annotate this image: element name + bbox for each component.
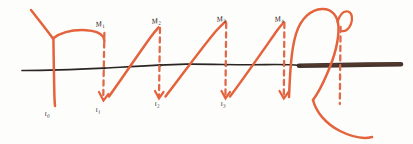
drop-tip-flicks-group (99, 91, 289, 101)
trough-labels-group: t0 t1 t2 t3 (44, 99, 226, 119)
peak-labels-group: M1 M2 M3 M4 (94, 14, 285, 30)
dashed-drop-3 (225, 23, 226, 98)
dashed-drop-2 (159, 28, 160, 98)
closing-loop-tail-stroke (313, 100, 372, 138)
trough-label-0: t0 (44, 109, 50, 119)
trough-label-2: t2 (154, 99, 160, 109)
peak-label-2: M2 (150, 16, 162, 27)
lead-in-stroke (31, 10, 53, 39)
ramp-3-stroke (166, 22, 226, 97)
ramp-4-stroke (230, 22, 284, 96)
peak-label-1: M1 (94, 19, 105, 30)
dashed-drop-4 (284, 23, 285, 98)
ramp-2-stroke (109, 27, 159, 96)
hand-drawn-waveform-figure: M1 M2 M3 M4 t0 t1 t2 t3 (0, 0, 413, 144)
peak-label-4: M4 (273, 14, 285, 25)
trough-label-1: t1 (95, 106, 101, 115)
first-vertical-stroke (53, 38, 55, 106)
peak-label-3: M3 (215, 14, 227, 25)
trough-label-3: t3 (220, 99, 226, 109)
dashed-drop-1 (103, 33, 104, 100)
dashed-drop-5 (340, 27, 341, 104)
sketch-canvas: M1 M2 M3 M4 t0 t1 t2 t3 (0, 0, 413, 144)
closing-loop-stroke (289, 9, 339, 100)
baseline-group (22, 63, 401, 72)
waveform-group (31, 9, 372, 138)
plateau-top-stroke (53, 30, 104, 41)
